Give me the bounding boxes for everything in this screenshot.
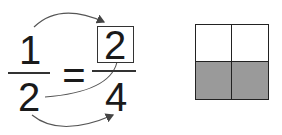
left-fraction-bar <box>8 72 50 74</box>
area-model <box>195 24 269 100</box>
left-numerator: 1 <box>14 30 46 70</box>
right-denominator: 4 <box>100 77 132 117</box>
right-numerator: 2 <box>99 25 131 65</box>
cell-top-right <box>232 25 268 62</box>
cell-top-left <box>196 25 232 62</box>
left-denominator: 2 <box>13 77 45 117</box>
top-arrow-icon <box>34 13 104 27</box>
cell-bottom-left-shaded <box>196 62 232 99</box>
cell-bottom-right-shaded <box>232 62 268 99</box>
right-fraction-bar <box>92 70 136 72</box>
equals-sign: = <box>60 55 88 95</box>
